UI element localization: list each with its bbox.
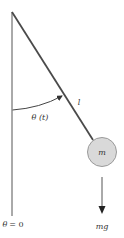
gravity-arrowhead-icon — [99, 206, 106, 214]
angle-arc-arrow — [13, 96, 63, 110]
reference-equals-zero: = 0 — [9, 220, 23, 229]
reference-angle-label: θ= 0 — [2, 220, 23, 229]
mass-label: m — [98, 148, 106, 157]
reference-theta-symbol: θ — [2, 220, 7, 229]
pendulum-diagram: θ (t) l m mg θ= 0 — [0, 0, 124, 238]
angle-label: θ (t) — [32, 113, 49, 122]
pendulum-rod — [12, 12, 93, 140]
length-label: l — [78, 98, 81, 107]
force-label: mg — [96, 222, 109, 231]
